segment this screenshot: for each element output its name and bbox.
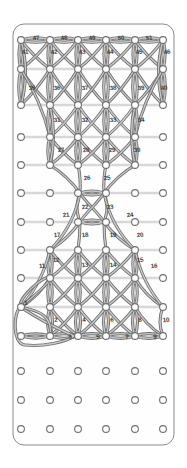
peg bbox=[132, 304, 139, 311]
peg bbox=[103, 426, 110, 433]
peg bbox=[47, 333, 54, 340]
peg bbox=[103, 304, 110, 311]
peg bbox=[103, 190, 110, 197]
peg bbox=[18, 134, 25, 141]
peg-label-32: 32 bbox=[81, 117, 88, 124]
peg-label-43: 43 bbox=[78, 49, 85, 56]
peg-label-7: 7 bbox=[125, 334, 129, 341]
peg bbox=[75, 304, 82, 311]
peg bbox=[18, 397, 25, 404]
peg bbox=[75, 426, 82, 433]
peg-label-5: 5 bbox=[96, 334, 100, 341]
peg-label-34: 34 bbox=[137, 117, 144, 124]
peg bbox=[160, 219, 167, 226]
peg bbox=[103, 102, 110, 109]
peg-label-24: 24 bbox=[126, 212, 133, 219]
peg-label-51: 51 bbox=[145, 35, 152, 42]
peg-label-41: 41 bbox=[21, 49, 28, 56]
peg bbox=[103, 66, 110, 73]
peg bbox=[18, 275, 25, 282]
peg-label-48: 48 bbox=[60, 35, 67, 42]
peg bbox=[75, 397, 82, 404]
peg-label-29: 29 bbox=[108, 147, 115, 154]
peg bbox=[75, 102, 82, 109]
peg bbox=[160, 397, 167, 404]
peg bbox=[103, 37, 110, 44]
peg-label-40: 40 bbox=[160, 85, 167, 92]
pegboard-diagram: 4748495051414243444546353637383940313233… bbox=[0, 0, 187, 468]
peg-label-42: 42 bbox=[50, 49, 57, 56]
peg-label-37: 37 bbox=[81, 85, 88, 92]
peg bbox=[47, 190, 54, 197]
peg-label-3: 3 bbox=[68, 334, 72, 341]
peg bbox=[18, 219, 25, 226]
peg-label-33: 33 bbox=[109, 117, 116, 124]
peg bbox=[18, 247, 25, 254]
peg bbox=[132, 66, 139, 73]
peg bbox=[47, 66, 54, 73]
peg bbox=[132, 333, 139, 340]
peg-label-11: 11 bbox=[39, 263, 46, 270]
peg bbox=[160, 66, 167, 73]
peg-label-47: 47 bbox=[32, 35, 39, 42]
peg bbox=[160, 333, 167, 340]
peg-label-16: 16 bbox=[150, 263, 157, 270]
peg-label-9: 9 bbox=[153, 334, 157, 341]
peg-label-13: 13 bbox=[81, 262, 88, 269]
peg bbox=[75, 162, 82, 169]
peg bbox=[132, 162, 139, 169]
peg bbox=[103, 134, 110, 141]
peg-label-45: 45 bbox=[135, 49, 142, 56]
peg bbox=[47, 368, 54, 375]
peg bbox=[18, 333, 25, 340]
peg bbox=[103, 219, 110, 226]
peg bbox=[160, 134, 167, 141]
peg bbox=[18, 304, 25, 311]
peg bbox=[132, 190, 139, 197]
peg bbox=[47, 397, 54, 404]
peg-label-30: 30 bbox=[133, 147, 140, 154]
peg bbox=[132, 426, 139, 433]
peg bbox=[47, 102, 54, 109]
peg bbox=[75, 66, 82, 73]
peg bbox=[75, 247, 82, 254]
peg-label-4: 4 bbox=[82, 317, 86, 324]
peg bbox=[47, 304, 54, 311]
peg-label-19: 19 bbox=[109, 232, 116, 239]
peg-label-1: 1 bbox=[24, 300, 28, 307]
peg bbox=[18, 368, 25, 375]
peg bbox=[18, 162, 25, 169]
peg bbox=[103, 162, 110, 169]
peg bbox=[75, 368, 82, 375]
peg bbox=[160, 162, 167, 169]
peg bbox=[75, 275, 82, 282]
peg bbox=[160, 426, 167, 433]
peg bbox=[132, 219, 139, 226]
peg bbox=[18, 190, 25, 197]
peg-label-10: 10 bbox=[162, 317, 169, 324]
peg-label-23: 23 bbox=[106, 204, 113, 211]
peg-label-8: 8 bbox=[138, 317, 142, 324]
peg bbox=[160, 368, 167, 375]
peg-label-18: 18 bbox=[81, 232, 88, 239]
peg bbox=[132, 102, 139, 109]
peg-label-25: 25 bbox=[103, 175, 110, 182]
board-canvas bbox=[0, 0, 187, 468]
peg bbox=[75, 134, 82, 141]
peg bbox=[103, 333, 110, 340]
peg bbox=[47, 275, 54, 282]
peg bbox=[47, 219, 54, 226]
peg-label-20: 20 bbox=[136, 232, 143, 239]
peg-label-2: 2 bbox=[54, 317, 58, 324]
peg bbox=[75, 333, 82, 340]
peg bbox=[103, 397, 110, 404]
peg bbox=[18, 66, 25, 73]
peg bbox=[47, 162, 54, 169]
peg-label-49: 49 bbox=[88, 35, 95, 42]
peg bbox=[132, 397, 139, 404]
peg-label-28: 28 bbox=[82, 147, 89, 154]
peg-label-17: 17 bbox=[53, 232, 60, 239]
peg bbox=[160, 102, 167, 109]
peg-label-27: 27 bbox=[57, 147, 64, 154]
peg bbox=[47, 247, 54, 254]
